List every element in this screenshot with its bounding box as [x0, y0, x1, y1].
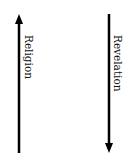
revelation-label: Revelation — [112, 35, 123, 92]
diagram: Religion Revelation — [0, 0, 135, 163]
religion-label: Religion — [23, 35, 34, 79]
religion-arrow-up-icon — [15, 14, 23, 153]
